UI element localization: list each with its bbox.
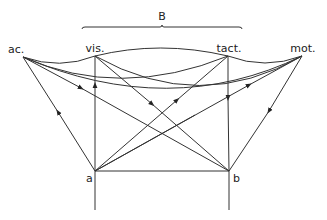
node-b-label: b: [233, 172, 240, 185]
group-label-b: B: [158, 10, 166, 23]
node-vis-label: vis.: [86, 42, 105, 55]
bottom-lines: [95, 171, 229, 210]
node-tact-label: tact.: [217, 42, 242, 55]
node-ac-label: ac.: [8, 43, 24, 56]
group-brace-b: B: [82, 10, 242, 29]
node-mot-label: mot.: [290, 42, 315, 55]
sensory-motor-diagram: B: [0, 0, 327, 220]
top-node-curves: [23, 48, 302, 88]
node-a-label: a: [86, 172, 93, 185]
